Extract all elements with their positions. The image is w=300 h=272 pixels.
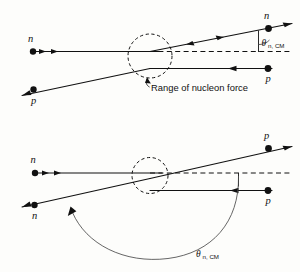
particle-label-lower-in-p: p	[264, 195, 270, 206]
angle-theta-symbol-lower: θ	[196, 249, 201, 259]
particle-dot-lower-out-p	[265, 145, 272, 152]
particle-dot-lower-in-p	[265, 187, 272, 194]
particle-label-upper-in-p: p	[264, 73, 270, 84]
angle-label-lower: θ n, CM	[196, 249, 219, 260]
particle-dot-lower-in-n	[32, 170, 38, 176]
angle-theta-symbol-upper: θ	[262, 38, 267, 48]
particle-dot-upper-out-p	[30, 86, 36, 92]
particle-dot-lower-out-n	[31, 202, 37, 208]
angle-theta-subscript-upper: n, CM	[268, 42, 285, 49]
outgoing-neutron-arrowhead-lower	[22, 202, 32, 207]
upper-diagram-group: n p n p θ n, CM Range of nucleon force	[22, 10, 292, 106]
particle-dot-upper-in-n	[30, 48, 36, 54]
incoming-proton-arrowhead-upper	[228, 66, 237, 71]
particle-label-upper-out-n: n	[264, 10, 269, 21]
angle-theta-subscript-lower: n, CM	[203, 253, 220, 260]
angle-arc-lower	[73, 176, 239, 259]
figure-root: n p n p θ n, CM Range of nucleon force	[0, 0, 300, 272]
outgoing-neutron-arrowhead-mid-upper	[216, 35, 224, 40]
incoming-neutron-arrowhead2-lower	[54, 170, 61, 175]
particle-label-lower-out-p: p	[263, 130, 269, 141]
outgoing-proton-ray-lower	[150, 147, 292, 179]
particle-label-lower-out-n: n	[32, 210, 37, 221]
neutron-flow-marker-upper	[186, 41, 195, 46]
caption-range-of-nucleon-force: Range of nucleon force	[151, 82, 248, 93]
scattering-figure-svg: n p n p θ n, CM Range of nucleon force	[0, 0, 300, 272]
particle-label-upper-out-p: p	[30, 95, 36, 106]
particle-label-lower-in-n: n	[30, 154, 35, 165]
angle-label-upper: θ n, CM	[262, 38, 285, 49]
lower-diagram-group: n n p p θ n, CM	[22, 130, 292, 260]
outgoing-neutron-ray-lower	[22, 179, 150, 208]
outgoing-proton-ray-upper	[22, 69, 150, 96]
particle-label-upper-in-n: n	[28, 33, 33, 44]
angle-arc-arrowhead-lower	[68, 207, 77, 217]
incoming-neutron-arrowhead-lower	[42, 170, 49, 175]
outgoing-proton-arrowhead-lower	[283, 146, 293, 151]
incoming-neutron-arrowhead2-upper	[51, 49, 58, 54]
particle-dot-upper-out-n	[265, 25, 272, 32]
incoming-neutron-arrowhead-upper	[39, 49, 46, 54]
particle-dot-upper-in-p	[265, 65, 272, 72]
